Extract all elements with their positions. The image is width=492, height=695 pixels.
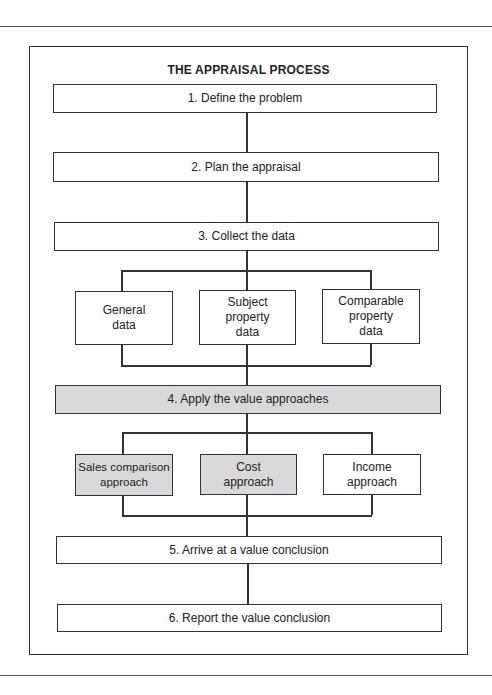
approach-branch-center-bottom	[246, 494, 248, 515]
data-comparable-box: Comparable property data	[322, 289, 420, 344]
approach-cost-label: Cost approach	[218, 460, 280, 490]
step-3-label: 3. Collect the data	[198, 229, 295, 244]
diagram-title: THE APPRAISAL PROCESS	[29, 63, 468, 77]
data-branch-right-top	[370, 270, 372, 289]
connector-5-6	[247, 563, 249, 604]
data-branch-left-bottom	[121, 344, 123, 365]
step-2-label: 2. Plan the appraisal	[191, 160, 300, 175]
approach-branch-left-bottom	[122, 495, 124, 515]
connector-branch-5	[246, 515, 248, 536]
data-comparable-label: Comparable property data	[336, 294, 406, 339]
step-4-box: 4. Apply the value approaches	[55, 385, 441, 414]
connector-branch-4	[246, 365, 248, 385]
step-1-label: 1. Define the problem	[188, 91, 303, 106]
step-5-label: 5. Arrive at a value conclusion	[169, 543, 328, 558]
data-general-box: General data	[75, 291, 173, 345]
approach-sales-label: Sales comparison approach	[76, 460, 172, 490]
step-4-label: 4. Apply the value approaches	[168, 392, 329, 407]
approach-sales-box: Sales comparison approach	[75, 454, 173, 496]
step-5-box: 5. Arrive at a value conclusion	[56, 536, 442, 564]
connector-4-branch	[246, 413, 248, 432]
data-subject-label: Subject property data	[217, 295, 279, 340]
data-branch-center-bottom	[246, 344, 248, 365]
data-subject-box: Subject property data	[199, 290, 296, 345]
approach-branch-right-bottom	[371, 494, 373, 515]
data-branch-center-top	[246, 270, 248, 290]
approach-income-label: Income approach	[341, 460, 403, 490]
step-1-box: 1. Define the problem	[53, 84, 437, 113]
approach-cost-box: Cost approach	[200, 454, 297, 495]
step-3-box: 3. Collect the data	[54, 222, 439, 251]
step-6-box: 6. Report the value conclusion	[57, 604, 442, 632]
data-branch-right-bottom	[370, 343, 372, 365]
data-branch-left-top	[121, 270, 123, 291]
approach-income-box: Income approach	[323, 454, 421, 495]
connector-1-2	[246, 112, 248, 152]
connector-3-branch	[246, 250, 248, 270]
bottom-rule	[0, 675, 492, 676]
approach-branch-center-top	[246, 432, 248, 454]
approach-branch-left-top	[122, 432, 124, 454]
step-2-box: 2. Plan the appraisal	[53, 152, 439, 182]
top-rule	[0, 26, 492, 27]
data-general-label: General data	[94, 303, 154, 333]
approach-branch-right-top	[371, 432, 373, 454]
step-6-label: 6. Report the value conclusion	[169, 611, 330, 626]
connector-2-3	[246, 181, 248, 222]
